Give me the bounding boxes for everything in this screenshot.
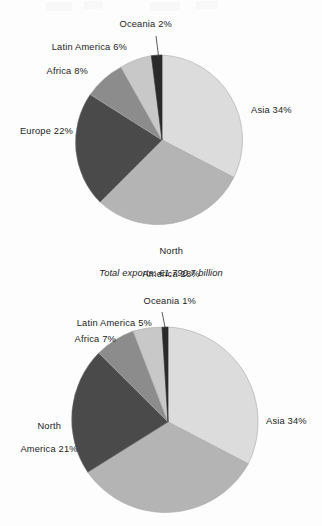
pie-1-label-europe: Europe 22%	[0, 126, 73, 137]
pie-2-label-africa: Africa 7%	[0, 334, 116, 345]
pie-2-label-north-america-line2: America 21%	[20, 444, 77, 454]
pie-2-label-asia: Asia 34%	[266, 416, 307, 427]
pie-1-label-latin-america: Latin America 6%	[0, 42, 127, 53]
pie-2-label-latin-america: Latin America 5%	[0, 318, 152, 329]
pie-2-label-north-america-line1: North	[37, 421, 61, 431]
pie-2-label-north-america: North America 21%	[0, 410, 82, 466]
pie-chart-figure: Asia 34% North America 28% Europe 22% Af…	[0, 0, 322, 526]
pie-1-total-exports-caption: Total exports: €1,790.7 billion	[0, 268, 322, 278]
pie-1-label-africa: Africa 8%	[0, 66, 88, 77]
chart-exports-by-destination-lower: Asia 34% North America 21% Africa 7% Lat…	[0, 290, 322, 526]
pie-1-label-asia: Asia 34%	[251, 105, 292, 116]
pie-1-label-north-america-line1: North	[159, 246, 183, 256]
pie-1-label-oceania: Oceania 2%	[62, 19, 172, 30]
chart-exports-by-destination-upper: Asia 34% North America 28% Europe 22% Af…	[0, 0, 322, 290]
pie-1-label-north-america: North America 28%	[108, 235, 218, 291]
pie-2-label-oceania: Oceania 1%	[70, 296, 196, 307]
